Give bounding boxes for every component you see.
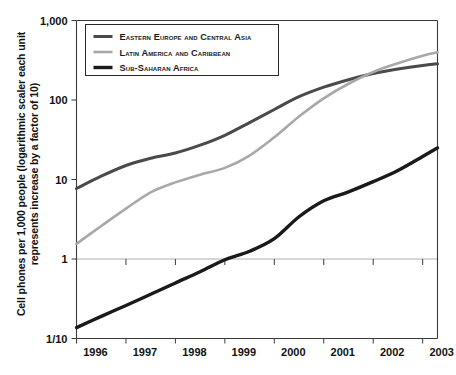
y-tick-label-4: 1/10 [46, 333, 67, 345]
y-axis-ticks [72, 21, 77, 339]
y-axis-tick-labels: 1,0001001011/10 [40, 15, 68, 345]
chart-legend: Eastern Europe and Central AsiaLatin Ame… [86, 25, 279, 76]
series-line-2 [77, 148, 438, 328]
x-axis-tick-labels: 19961997199819992000200120022003 [83, 346, 454, 358]
y-tick-label-2: 10 [55, 174, 67, 186]
legend-label-1: Latin America and Caribbean [120, 48, 231, 58]
y-tick-label-1: 100 [49, 94, 67, 106]
chart-figure: Cell phones per 1,000 people (logarithmi… [0, 0, 456, 375]
y-tick-label-3: 1 [61, 253, 67, 265]
y-tick-label-0: 1,000 [40, 15, 68, 27]
x-tick-label-3: 1999 [232, 346, 256, 358]
x-tick-label-5: 2001 [331, 346, 355, 358]
series-line-0 [77, 64, 438, 189]
series-lines [77, 52, 438, 327]
series-line-1 [77, 52, 438, 244]
x-tick-label-0: 1996 [83, 346, 107, 358]
legend-label-2: Sub-Saharan Africa [120, 63, 200, 73]
chart-plot-area: 1,0001001011/10 199619971998199920002001… [0, 0, 456, 375]
x-tick-label-2: 1998 [182, 346, 206, 358]
legend-label-0: Eastern Europe and Central Asia [120, 32, 252, 42]
x-tick-label-7: 2003 [429, 346, 453, 358]
x-tick-label-6: 2002 [380, 346, 404, 358]
x-tick-label-4: 2000 [281, 346, 305, 358]
x-tick-label-1: 1997 [133, 346, 157, 358]
x-axis-ticks [77, 259, 423, 344]
